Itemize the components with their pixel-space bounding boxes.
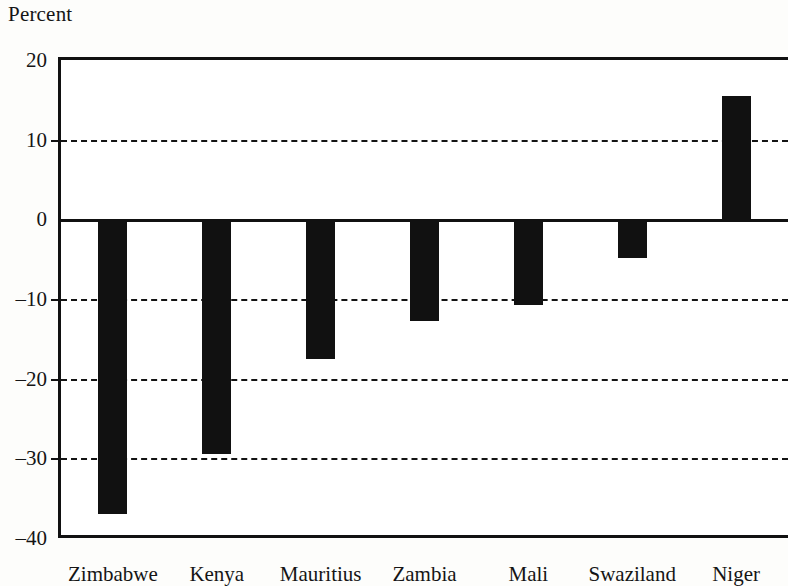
tick-mark <box>51 379 61 381</box>
y-axis-tick-label: –40 <box>16 526 48 551</box>
bar <box>306 219 335 358</box>
bar <box>618 219 647 257</box>
x-axis-tick-label: Zimbabwe <box>68 562 158 586</box>
bar <box>98 219 127 514</box>
bar <box>722 96 751 219</box>
chart-page: Percent 20100–10–20–30–40 ZimbabweKenyaM… <box>0 0 788 586</box>
gridline <box>61 140 788 142</box>
bar <box>202 219 231 454</box>
bar <box>514 219 543 304</box>
zero-baseline <box>58 219 788 222</box>
y-axis-tick-label: 20 <box>26 48 47 73</box>
x-axis-tick-label: Kenya <box>189 562 244 586</box>
x-axis-tick-label: Niger <box>712 562 760 586</box>
y-axis-tick-label: –10 <box>16 287 48 312</box>
x-axis-tick-label: Mauritius <box>280 562 362 586</box>
x-axis-tick-label: Swaziland <box>588 562 675 586</box>
plot-area: 20100–10–20–30–40 ZimbabweKenyaMauritius… <box>61 60 788 538</box>
page-title: Percent <box>8 2 72 27</box>
y-axis-tick-label: 10 <box>26 127 47 152</box>
gridline <box>61 379 788 381</box>
y-axis-tick-label: –30 <box>16 446 48 471</box>
x-axis-tick-label: Zambia <box>392 562 456 586</box>
tick-mark <box>51 458 61 460</box>
tick-mark <box>51 299 61 301</box>
gridline <box>61 458 788 460</box>
bar <box>410 219 439 320</box>
y-axis-tick-label: –20 <box>16 366 48 391</box>
tick-mark <box>51 140 61 142</box>
x-axis-tick-label: Mali <box>509 562 549 586</box>
y-axis-tick-label: 0 <box>37 207 48 232</box>
